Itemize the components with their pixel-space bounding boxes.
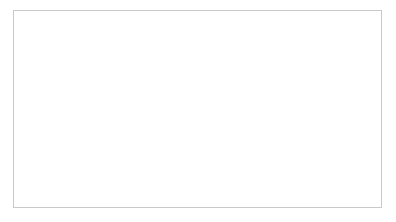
chart-container: 0.000.050.100.150.200.250.30 19931995199…	[0, 0, 396, 222]
chart-frame-border	[13, 10, 382, 208]
